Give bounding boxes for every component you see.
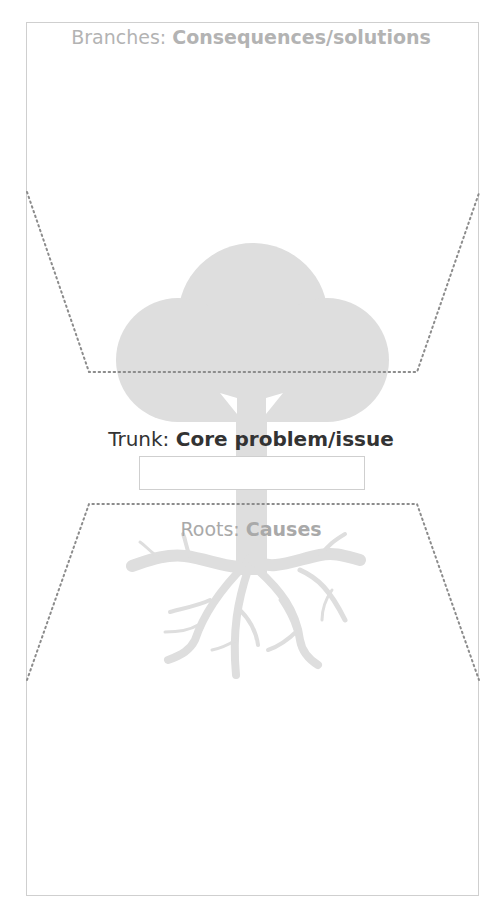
- trunk-label-bold: Core problem/issue: [176, 427, 394, 451]
- branches-label-prefix: Branches:: [71, 26, 172, 48]
- roots-label-prefix: Roots:: [180, 518, 245, 540]
- trunk-label-prefix: Trunk:: [108, 427, 176, 451]
- branches-label-bold: Consequences/solutions: [172, 26, 431, 48]
- trunk-title: Trunk: Core problem/issue: [0, 427, 502, 451]
- branches-title: Branches: Consequences/solutions: [0, 26, 502, 48]
- core-problem-input[interactable]: [139, 456, 365, 490]
- roots-title: Roots: Causes: [0, 518, 502, 540]
- roots-label-bold: Causes: [246, 518, 322, 540]
